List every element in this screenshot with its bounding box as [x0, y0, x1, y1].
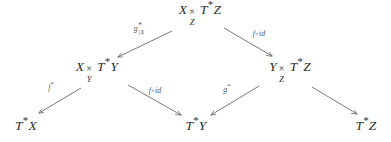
arrow-midright-to-bottommiddle [211, 86, 259, 115]
node-mid-right-right-factor: T*Z [290, 60, 311, 74]
node-mid-right-fiber-product-symbol: × Z [279, 64, 285, 84]
node-bottom-left: T*X [15, 119, 37, 133]
edge-label-f-star: f* [48, 84, 54, 92]
node-bottom-right: T*Z [355, 119, 376, 133]
node-mid-left-fiber-product-symbol: × Y [86, 64, 92, 84]
commutative-diagram: X × Z T*Z X × Y T*Y Y × Z T*Z [0, 0, 391, 142]
node-bottom-middle: T*Y [185, 119, 206, 133]
edge-label-f-times-id-top: f×id [253, 30, 265, 38]
edge-label-f-times-id-lower: f×id [149, 87, 161, 95]
node-top-left-factor: X [179, 3, 187, 17]
node-mid-left-right-factor: T*Y [97, 60, 118, 74]
arrow-top-to-midleft [118, 31, 172, 57]
node-top-fiber-product-symbol: × Z [189, 7, 195, 27]
edge-label-g-star: g* [223, 86, 231, 94]
edge-label-g-star-restricted-x: g * |X [134, 23, 144, 34]
node-top: X × Z T*Z [179, 3, 221, 26]
arrow-midright-to-bottomright [312, 87, 357, 114]
node-top-right-factor: T*Z [200, 3, 221, 17]
node-mid-right: Y × Z T*Z [269, 60, 311, 83]
node-mid-left: X × Y T*Y [76, 60, 118, 83]
arrow-midleft-to-bottomleft [39, 88, 81, 113]
node-mid-left-left-factor: X [76, 60, 84, 74]
node-mid-right-left-factor: Y [269, 60, 277, 74]
